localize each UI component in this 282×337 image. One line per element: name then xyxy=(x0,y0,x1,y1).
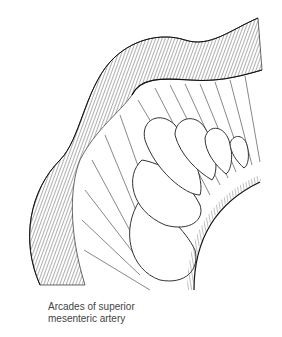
figure: Arcades of superior mesenteric artery xyxy=(0,0,282,337)
caption-line-1: Arcades of superior xyxy=(48,301,135,313)
caption-line-2: mesenteric artery xyxy=(48,313,135,325)
figure-caption: Arcades of superior mesenteric artery xyxy=(48,301,135,325)
intestine-mesentery-illustration xyxy=(0,0,282,337)
